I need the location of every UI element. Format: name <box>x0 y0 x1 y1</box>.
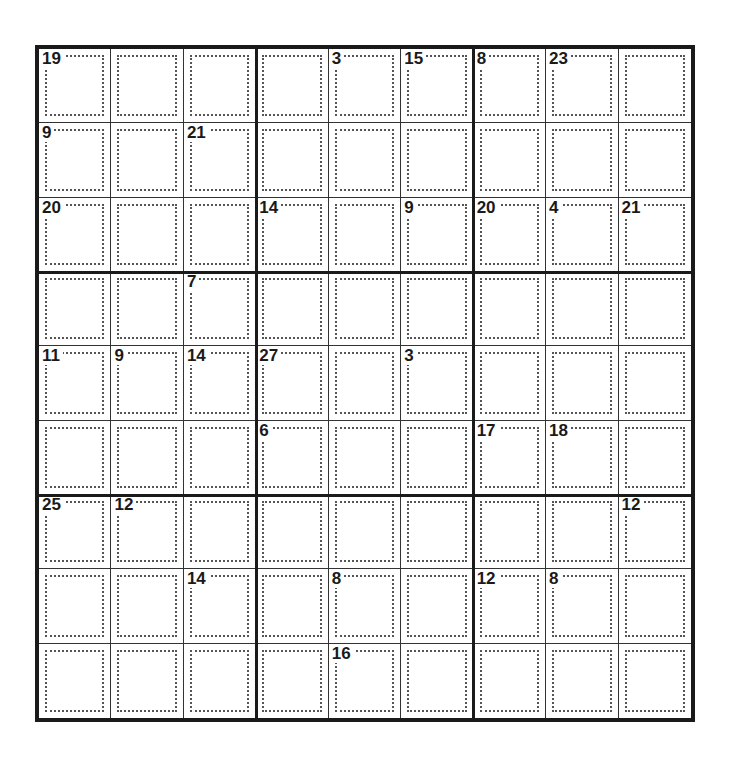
grid-cell[interactable] <box>401 272 473 346</box>
grid-cell[interactable]: 11 <box>39 346 111 420</box>
grid-cell[interactable] <box>474 123 546 197</box>
cage-outline <box>335 352 394 413</box>
grid-cell[interactable]: 8 <box>474 49 546 123</box>
grid-cell[interactable]: 17 <box>474 421 546 495</box>
grid-cell[interactable]: 15 <box>401 49 473 123</box>
grid-cell[interactable] <box>619 421 691 495</box>
grid-cell[interactable] <box>111 644 183 718</box>
grid-cell[interactable] <box>111 198 183 272</box>
cage-outline <box>625 650 685 712</box>
grid-cell[interactable] <box>329 123 401 197</box>
grid-cell[interactable] <box>184 421 256 495</box>
cage-outline <box>117 278 176 339</box>
grid-cell[interactable]: 12 <box>111 495 183 569</box>
grid-cell[interactable] <box>546 495 618 569</box>
grid-cell[interactable]: 18 <box>546 421 618 495</box>
cage-sum-label: 3 <box>404 347 416 365</box>
grid-cell[interactable] <box>401 123 473 197</box>
cage-outline <box>45 650 104 712</box>
grid-cell[interactable] <box>619 49 691 123</box>
grid-cell[interactable] <box>329 198 401 272</box>
grid-cell[interactable] <box>401 644 473 718</box>
grid-cell[interactable] <box>474 644 546 718</box>
grid-cell[interactable] <box>111 272 183 346</box>
grid-cell[interactable]: 16 <box>329 644 401 718</box>
grid-cell[interactable]: 21 <box>619 198 691 272</box>
grid-cell[interactable]: 12 <box>619 495 691 569</box>
grid-cell[interactable]: 14 <box>256 198 328 272</box>
grid-cell[interactable] <box>111 569 183 643</box>
grid-cell[interactable] <box>329 421 401 495</box>
grid-cell[interactable] <box>39 569 111 643</box>
cage-outline <box>335 278 394 339</box>
cage-outline <box>625 55 685 116</box>
grid-cell[interactable]: 20 <box>474 198 546 272</box>
grid-cell[interactable] <box>111 123 183 197</box>
grid-cell[interactable] <box>474 495 546 569</box>
grid-cell[interactable] <box>256 644 328 718</box>
grid-cell[interactable] <box>329 272 401 346</box>
grid-cell[interactable] <box>401 421 473 495</box>
grid-cell[interactable]: 9 <box>39 123 111 197</box>
grid-cell[interactable] <box>546 346 618 420</box>
grid-cell[interactable]: 21 <box>184 123 256 197</box>
cage-outline <box>480 278 539 339</box>
grid-cell[interactable]: 25 <box>39 495 111 569</box>
grid-cell[interactable]: 14 <box>184 569 256 643</box>
grid-cell[interactable] <box>619 569 691 643</box>
grid-cell[interactable]: 27 <box>256 346 328 420</box>
grid-cell[interactable] <box>39 272 111 346</box>
grid-cell[interactable] <box>474 346 546 420</box>
grid-cell[interactable] <box>256 495 328 569</box>
grid-cell[interactable]: 23 <box>546 49 618 123</box>
grid-cell[interactable] <box>184 49 256 123</box>
grid-cell[interactable] <box>329 495 401 569</box>
cage-outline <box>552 129 611 190</box>
grid-cell[interactable] <box>546 644 618 718</box>
grid-cell[interactable] <box>39 421 111 495</box>
cage-sum-label: 18 <box>549 422 571 440</box>
cage-outline <box>407 278 466 339</box>
grid-cell[interactable] <box>256 49 328 123</box>
grid-cell[interactable] <box>39 644 111 718</box>
grid-cell[interactable]: 6 <box>256 421 328 495</box>
grid-cell[interactable]: 12 <box>474 569 546 643</box>
cage-outline <box>407 575 466 636</box>
grid-cell[interactable]: 4 <box>546 198 618 272</box>
grid-cell[interactable]: 9 <box>111 346 183 420</box>
grid-cell[interactable] <box>401 495 473 569</box>
grid-cell[interactable] <box>619 123 691 197</box>
grid-cell[interactable]: 8 <box>546 569 618 643</box>
cage-outline <box>480 352 539 413</box>
grid-cell[interactable] <box>256 272 328 346</box>
grid-cell[interactable] <box>474 272 546 346</box>
grid-cell[interactable] <box>619 272 691 346</box>
grid-cell[interactable]: 9 <box>401 198 473 272</box>
grid-cell[interactable] <box>546 123 618 197</box>
cage-sum-label: 8 <box>549 570 561 588</box>
grid-cell[interactable]: 19 <box>39 49 111 123</box>
grid-cell[interactable]: 14 <box>184 346 256 420</box>
cage-sum-label: 21 <box>622 199 644 217</box>
grid-cell[interactable] <box>256 569 328 643</box>
grid-cell[interactable] <box>329 346 401 420</box>
grid-cell[interactable] <box>546 272 618 346</box>
grid-cell[interactable] <box>111 421 183 495</box>
grid-cell[interactable] <box>619 644 691 718</box>
cage-sum-label: 12 <box>477 570 499 588</box>
grid-cell[interactable] <box>184 495 256 569</box>
grid-cell[interactable]: 20 <box>39 198 111 272</box>
grid-cell[interactable] <box>111 49 183 123</box>
cage-sum-label: 20 <box>42 199 64 217</box>
grid-cell[interactable]: 3 <box>401 346 473 420</box>
cage-sum-label: 8 <box>477 50 489 68</box>
grid-cell[interactable] <box>401 569 473 643</box>
grid-cell[interactable] <box>619 346 691 420</box>
grid-cell[interactable] <box>256 123 328 197</box>
grid-cell[interactable] <box>184 644 256 718</box>
grid-cell[interactable] <box>184 198 256 272</box>
cage-outline <box>190 204 249 265</box>
grid-cell[interactable]: 7 <box>184 272 256 346</box>
grid-cell[interactable]: 8 <box>329 569 401 643</box>
grid-cell[interactable]: 3 <box>329 49 401 123</box>
